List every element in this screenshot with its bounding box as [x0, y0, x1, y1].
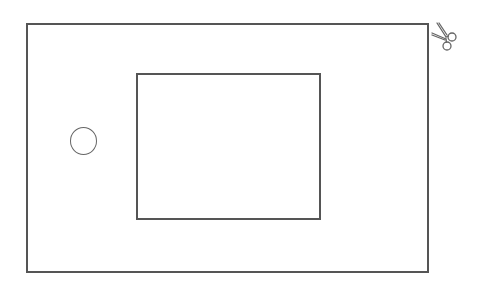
- diagram-canvas: cut-out template sketch: [0, 0, 483, 284]
- circle-hole: [70, 127, 97, 155]
- inner-rectangle-window: [136, 73, 321, 220]
- scissors-icon: [429, 20, 461, 52]
